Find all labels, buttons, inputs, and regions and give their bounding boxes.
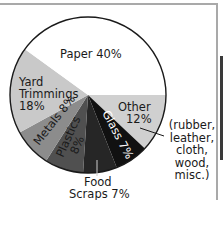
label-yard-3: 18% <box>19 99 45 113</box>
other-annotation: (rubber, leather, cloth, wood, misc.) <box>162 119 222 182</box>
annotation-line: misc.) <box>162 169 222 182</box>
label-food-2: Scraps 7% <box>69 187 130 200</box>
annotation-line: (rubber, <box>162 119 222 132</box>
annotation-line: cloth, <box>162 144 222 157</box>
label-other-2: 12% <box>126 112 152 126</box>
label-paper: Paper 40% <box>60 47 122 61</box>
